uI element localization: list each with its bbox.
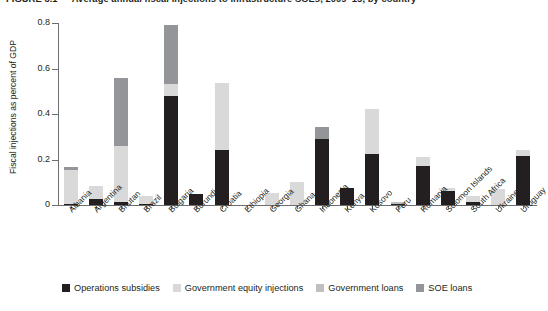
- legend-swatch-icon: [416, 284, 424, 292]
- bar-segment: [416, 157, 430, 166]
- bar-segment: [365, 109, 379, 153]
- legend-swatch-icon: [316, 284, 324, 292]
- y-axis-tick-label: 0: [4, 200, 50, 209]
- bar-segment: [315, 139, 329, 205]
- y-axis-tick-label: 0.8: [4, 18, 50, 27]
- y-axis-tick-label: 0.2: [4, 155, 50, 164]
- y-axis-tick-label: 0.6: [4, 64, 50, 73]
- legend-item[interactable]: SOE loans: [416, 283, 472, 293]
- legend-swatch-icon: [173, 284, 181, 292]
- bar-segment: [215, 83, 229, 150]
- legend-label: Government equity injections: [185, 283, 303, 293]
- plot-area: [58, 23, 536, 205]
- bar-croatia[interactable]: [215, 83, 229, 205]
- bar-bulgaria[interactable]: [164, 25, 178, 205]
- bar-segment: [164, 96, 178, 205]
- bar-segment: [315, 127, 329, 140]
- bar-segment: [164, 84, 178, 95]
- figure-title: FIGURE 3.1Average annual fiscal injectio…: [6, 0, 545, 6]
- bar-segment: [114, 78, 128, 146]
- legend-item[interactable]: Government loans: [316, 283, 403, 293]
- legend-label: SOE loans: [428, 283, 472, 293]
- legend-swatch-icon: [62, 284, 70, 292]
- chart-legend: Operations subsidiesGovernment equity in…: [62, 283, 485, 293]
- y-axis-tick-label: 0.4: [4, 109, 50, 118]
- bar-indonesia[interactable]: [315, 127, 329, 205]
- bar-kosovo[interactable]: [365, 109, 379, 205]
- legend-item[interactable]: Government equity injections: [173, 283, 303, 293]
- legend-item[interactable]: Operations subsidies: [62, 283, 160, 293]
- legend-label: Government loans: [328, 283, 403, 293]
- y-axis-labels: 00.20.40.60.8: [0, 0, 50, 240]
- legend-label: Operations subsidies: [74, 283, 160, 293]
- figure-title-text: Average annual fiscal injections to infr…: [72, 0, 417, 4]
- bar-segment: [164, 25, 178, 84]
